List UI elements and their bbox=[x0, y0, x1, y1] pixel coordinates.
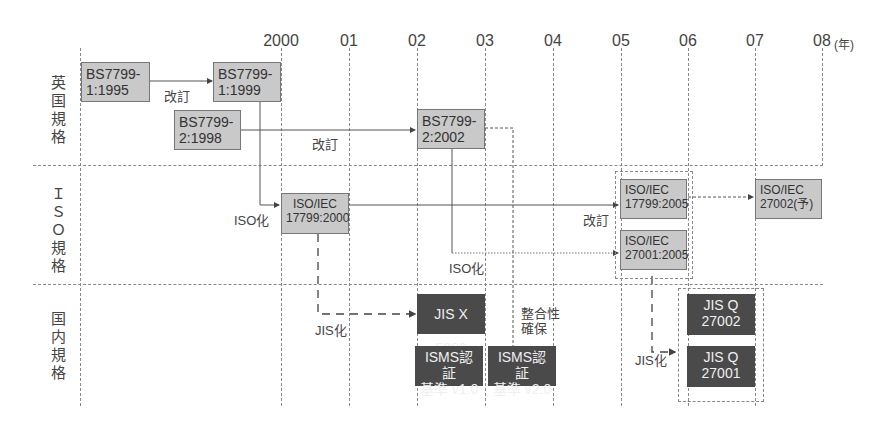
box-iso17799-2005: ISO/IEC17799:2005 bbox=[620, 179, 687, 219]
box-bs7799-2-1998: BS7799-2:1998 bbox=[174, 110, 241, 150]
box-jis-q-27001: JIS Q27001 bbox=[687, 346, 755, 387]
box-isms-v2: ISMS認証基準 v2.0 bbox=[488, 346, 556, 386]
box-isms-v1: ISMS認証基準 v1.0 bbox=[415, 346, 483, 386]
label-consistency: 整合性確保 bbox=[521, 306, 560, 336]
box-bs7799-2-2002: BS7799-2:2002 bbox=[417, 109, 485, 149]
label-iso-ize-2005: ISO化 bbox=[449, 258, 484, 277]
box-iso27001-2005: ISO/IEC27001:2005 bbox=[620, 230, 687, 270]
label-revise-2002: 改訂 bbox=[312, 134, 338, 153]
box-iso27002-planned: ISO/IEC27002(予) bbox=[755, 179, 822, 219]
box-bs7799-1-1995: BS7799-1:1995 bbox=[81, 62, 150, 102]
label-revise-2005: 改訂 bbox=[583, 210, 609, 229]
box-bs7799-1-1999: BS7799-1:1999 bbox=[213, 62, 281, 102]
label-jis-ize-27000: JIS化 bbox=[635, 350, 667, 369]
box-jis-q-27002: JIS Q27002 bbox=[687, 294, 755, 335]
label-iso-ize-2000: ISO化 bbox=[234, 210, 269, 229]
box-jis-x-5080: JIS X 5080 bbox=[417, 294, 485, 334]
label-jis-ize-5080: JIS化 bbox=[315, 320, 347, 339]
label-revise-1999: 改訂 bbox=[164, 86, 190, 105]
box-iso17799-2000: ISO/IEC17799:2000 bbox=[281, 193, 349, 234]
